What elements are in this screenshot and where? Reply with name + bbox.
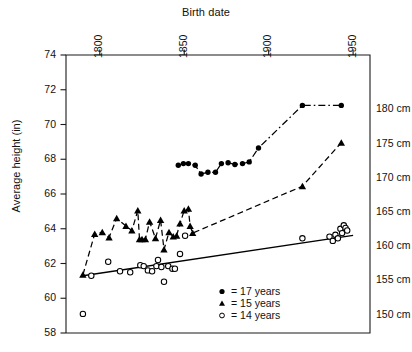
data-point (155, 257, 160, 262)
data-point (146, 218, 153, 225)
data-point (339, 230, 344, 235)
y-axis-tick-label: 58 (30, 326, 56, 338)
legend-marker-open-circle-icon (218, 310, 231, 320)
data-point (106, 259, 111, 264)
data-point (161, 279, 166, 284)
legend-item-14-years: = 14 years (218, 309, 280, 321)
data-point (176, 163, 181, 168)
legend-marker-filled-triangle-icon (218, 298, 231, 308)
y-axis-tick-label: 70 (30, 118, 56, 130)
x-axis-tick-label: 1900 (261, 35, 273, 58)
data-point (117, 269, 122, 274)
right-axis-tick-label: 160 cm (376, 239, 410, 251)
chart-figure: Birth date Average height (in) 180018501… (0, 0, 412, 352)
series-14-years (80, 223, 353, 317)
data-point (182, 233, 187, 238)
chart-legend: = 17 years = 15 years = 14 years (218, 285, 280, 322)
x-axis-tick-label: 1800 (92, 35, 104, 58)
data-point (89, 273, 94, 278)
data-point (189, 230, 196, 237)
y-axis-tick-label: 62 (30, 257, 56, 269)
series-17-years (176, 103, 344, 177)
legend-label-15-years: = 15 years (231, 297, 280, 309)
data-point (335, 236, 340, 241)
data-point (80, 311, 85, 316)
legend-label-14-years: = 14 years (231, 309, 280, 321)
x-axis-tick-label: 1950 (346, 35, 358, 58)
right-axis-tick-label: 175 cm (376, 137, 410, 149)
chart-y-axis-label: Average height (in) (10, 96, 22, 236)
data-point (345, 228, 350, 233)
right-axis-tick-label: 150 cm (376, 308, 410, 320)
data-point (176, 220, 183, 227)
y-axis-tick-label: 66 (30, 187, 56, 199)
y-axis-tick-label: 68 (30, 152, 56, 164)
data-point (134, 207, 141, 214)
data-point (159, 264, 164, 269)
data-point (299, 183, 306, 190)
data-point (105, 234, 112, 241)
data-point (339, 103, 344, 108)
legend-item-17-years: = 17 years (218, 285, 280, 297)
data-point (232, 162, 237, 167)
data-point (152, 235, 159, 242)
data-point (99, 229, 106, 236)
right-axis-tick-label: 170 cm (376, 171, 410, 183)
data-point (187, 223, 194, 230)
data-point (177, 251, 182, 256)
data-point (240, 161, 245, 166)
data-point (165, 229, 172, 236)
data-point (79, 271, 86, 278)
data-point (181, 161, 186, 166)
data-point (247, 159, 252, 164)
legend-marker-filled-circle-icon (218, 286, 231, 296)
data-point (185, 205, 192, 211)
series-line (83, 143, 341, 275)
data-point (113, 215, 120, 222)
data-point (338, 139, 345, 146)
data-point (300, 103, 305, 108)
data-point (157, 217, 164, 223)
right-axis-tick-label: 180 cm (376, 102, 410, 114)
y-axis-tick-label: 74 (30, 48, 56, 60)
data-point (300, 236, 305, 241)
data-point (172, 266, 177, 271)
data-point (91, 231, 98, 237)
right-axis-tick-label: 155 cm (376, 273, 410, 285)
data-point (141, 263, 146, 268)
right-axis-tick-label: 165 cm (376, 205, 410, 217)
data-point (205, 170, 210, 175)
y-axis-tick-label: 72 (30, 83, 56, 95)
data-point (225, 160, 230, 165)
chart-top-axis-title: Birth date (0, 6, 412, 18)
series-line (178, 105, 341, 174)
data-point (198, 171, 203, 176)
data-point (330, 238, 335, 243)
legend-item-15-years: = 15 years (218, 297, 280, 309)
data-point (213, 170, 218, 175)
data-point (149, 269, 154, 274)
y-axis-tick-label: 60 (30, 291, 56, 303)
x-axis-tick-label: 1850 (177, 35, 189, 58)
data-point (154, 263, 159, 268)
data-point (219, 161, 224, 166)
data-point (256, 145, 261, 150)
data-point (128, 270, 133, 275)
data-point (160, 246, 167, 253)
data-point (193, 163, 198, 168)
legend-label-17-years: = 17 years (231, 285, 280, 297)
y-axis-tick-label: 64 (30, 222, 56, 234)
data-point (186, 161, 191, 166)
